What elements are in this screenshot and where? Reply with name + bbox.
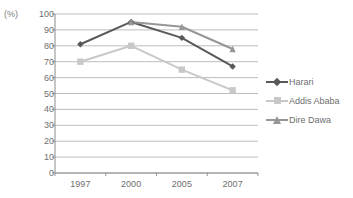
legend-label-addis-ababa: Addis Ababa (288, 96, 340, 106)
legend-marker-addis-ababa (266, 95, 288, 106)
legend-item-harari: Harari (266, 72, 353, 91)
legend-item-addis-ababa: Addis Ababa (266, 91, 353, 110)
legend-label-dire-dawa: Dire Dawa (288, 115, 331, 125)
line-chart: (%) 1009080706050403020100 1997200020052… (0, 0, 353, 198)
chart-legend: Harari Addis Ababa Dire Dawa (266, 72, 353, 129)
x-axis-tick-label: 2000 (121, 179, 141, 189)
legend-marker-dire-dawa (266, 114, 288, 125)
legend-label-harari: Harari (288, 77, 314, 87)
x-axis-tick-label: 2005 (172, 179, 192, 189)
legend-item-dire-dawa: Dire Dawa (266, 110, 353, 129)
x-axis-tick-label: 2007 (223, 179, 243, 189)
legend-marker-harari (266, 76, 288, 87)
x-axis-tick-label: 1997 (70, 179, 90, 189)
